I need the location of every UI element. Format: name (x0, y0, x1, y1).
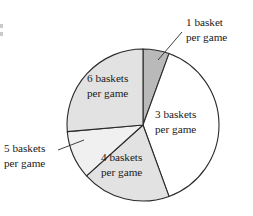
pie-label-line1: 6 baskets (87, 72, 128, 84)
pie-label-line1: 4 baskets (101, 151, 142, 163)
pie-label-line2: per game (4, 157, 45, 169)
pie-label-line1: 5 baskets (4, 142, 45, 154)
pie-label-line2: per game (87, 87, 128, 99)
pie-label-1-baskets: 1 basketper game (186, 16, 227, 43)
pie-chart-canvas: 1 basketper game3 basketsper game4 baske… (0, 0, 253, 216)
pie-label-line2: per game (155, 123, 196, 135)
pie-label-line1: 3 baskets (155, 108, 196, 120)
pie-label-line1: 1 basket (186, 16, 224, 28)
pie-label-5-baskets: 5 basketsper game (4, 142, 45, 169)
pie-label-line2: per game (101, 166, 142, 178)
pie-chart-figure: 1 basketper game3 basketsper game4 baske… (0, 0, 253, 216)
pie-label-line2: per game (186, 31, 227, 43)
